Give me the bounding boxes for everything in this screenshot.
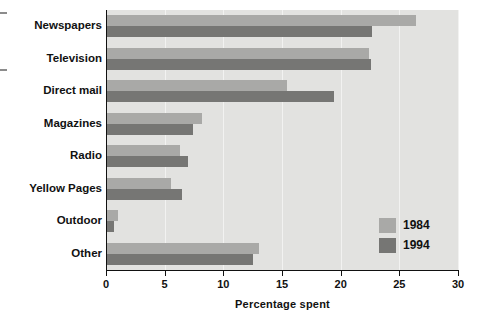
bar-chart-figure: 051015202530 NewspapersTelevisionDirect … — [0, 0, 478, 330]
bar-yellow-pages-1984 — [106, 178, 171, 189]
x-tick-label-15: 15 — [267, 278, 297, 290]
bar-yellow-pages-1994 — [106, 189, 182, 200]
category-label-television: Television — [2, 52, 102, 64]
bar-radio-1994 — [106, 156, 188, 167]
bar-magazines-1994 — [106, 124, 193, 135]
category-axis-labels: NewspapersTelevisionDirect mailMagazines… — [0, 10, 102, 270]
category-label-direct-mail: Direct mail — [2, 84, 102, 96]
x-tick-mark-30 — [458, 271, 459, 276]
bar-magazines-1984 — [106, 113, 202, 124]
x-tick-mark-20 — [341, 271, 342, 276]
legend-swatch-1994-icon — [379, 238, 396, 253]
x-axis-title: Percentage spent — [106, 298, 459, 310]
gridline-x-30 — [458, 10, 459, 270]
bar-newspapers-1994 — [106, 26, 372, 37]
x-tick-label-0: 0 — [91, 278, 121, 290]
y-axis-line — [106, 10, 107, 271]
bar-other-1994 — [106, 254, 253, 265]
bar-newspapers-1984 — [106, 15, 416, 26]
gridline-x-25 — [399, 10, 400, 270]
category-label-yellow-pages: Yellow Pages — [2, 182, 102, 194]
bar-television-1994 — [106, 59, 371, 70]
legend-swatch-1984-icon — [379, 218, 396, 233]
x-tick-label-5: 5 — [150, 278, 180, 290]
x-tick-mark-25 — [399, 271, 400, 276]
x-tick-mark-0 — [106, 271, 107, 276]
bar-other-1984 — [106, 243, 259, 254]
category-label-radio: Radio — [2, 149, 102, 161]
category-label-outdoor: Outdoor — [2, 214, 102, 226]
category-label-other: Other — [2, 247, 102, 259]
bar-outdoor-1984 — [106, 210, 118, 221]
x-tick-label-25: 25 — [384, 278, 414, 290]
bar-direct-mail-1984 — [106, 80, 287, 91]
bar-direct-mail-1994 — [106, 91, 334, 102]
category-label-newspapers: Newspapers — [2, 19, 102, 31]
legend-label-1984: 1984 — [403, 218, 430, 232]
x-tick-label-20: 20 — [326, 278, 356, 290]
legend-label-1994: 1994 — [403, 238, 430, 252]
x-tick-label-10: 10 — [208, 278, 238, 290]
bar-radio-1984 — [106, 145, 180, 156]
x-tick-mark-10 — [223, 271, 224, 276]
category-label-magazines: Magazines — [2, 117, 102, 129]
bar-outdoor-1994 — [106, 221, 114, 232]
x-tick-mark-5 — [165, 271, 166, 276]
x-tick-mark-15 — [282, 271, 283, 276]
x-tick-label-30: 30 — [443, 278, 473, 290]
bar-television-1984 — [106, 48, 369, 59]
